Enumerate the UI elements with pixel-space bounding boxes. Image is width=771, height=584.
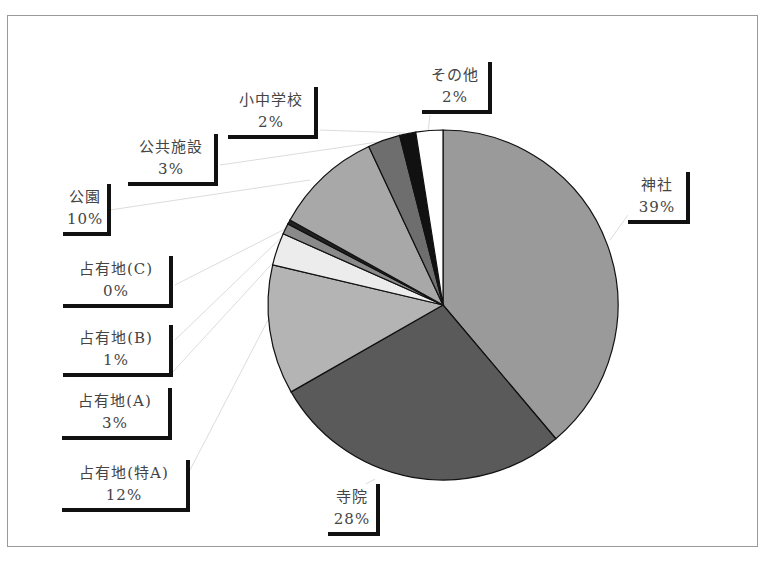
- label-percent: 10%: [67, 208, 103, 230]
- label-percent: 2%: [426, 86, 484, 108]
- label-jinja: 神社 39%: [628, 172, 690, 224]
- label-sonota: その他 2%: [422, 62, 492, 114]
- label-name: 占有地(C): [67, 258, 165, 280]
- label-name: 占有地(A): [66, 390, 164, 412]
- label-percent: 1%: [67, 349, 165, 371]
- label-name: 寺院: [332, 486, 372, 508]
- label-percent: 28%: [332, 508, 372, 530]
- label-name: その他: [426, 64, 484, 86]
- label-percent: 3%: [66, 412, 164, 434]
- label-senyuchi-b: 占有地(B) 1%: [63, 325, 173, 377]
- label-name: 公共施設: [132, 136, 210, 158]
- label-name: 神社: [632, 174, 682, 196]
- label-shochu-gakko: 小中学校 2%: [228, 87, 318, 139]
- label-kokyo-shisetsu: 公共施設 3%: [128, 134, 218, 186]
- label-name: 占有地(特A): [66, 462, 182, 484]
- pie-slices: [268, 130, 618, 480]
- label-name: 公園: [67, 186, 103, 208]
- label-percent: 3%: [132, 158, 210, 180]
- label-percent: 12%: [66, 484, 182, 506]
- label-senyuchi-c: 占有地(C) 0%: [63, 256, 173, 308]
- label-name: 小中学校: [232, 89, 310, 111]
- label-percent: 39%: [632, 196, 682, 218]
- label-senyuchi-toku-a: 占有地(特A) 12%: [62, 460, 190, 512]
- label-percent: 2%: [232, 111, 310, 133]
- label-senyuchi-a: 占有地(A) 3%: [62, 388, 172, 440]
- label-name: 占有地(B): [67, 327, 165, 349]
- label-jiin: 寺院 28%: [328, 484, 380, 536]
- label-percent: 0%: [67, 280, 165, 302]
- label-koen: 公園 10%: [63, 184, 111, 236]
